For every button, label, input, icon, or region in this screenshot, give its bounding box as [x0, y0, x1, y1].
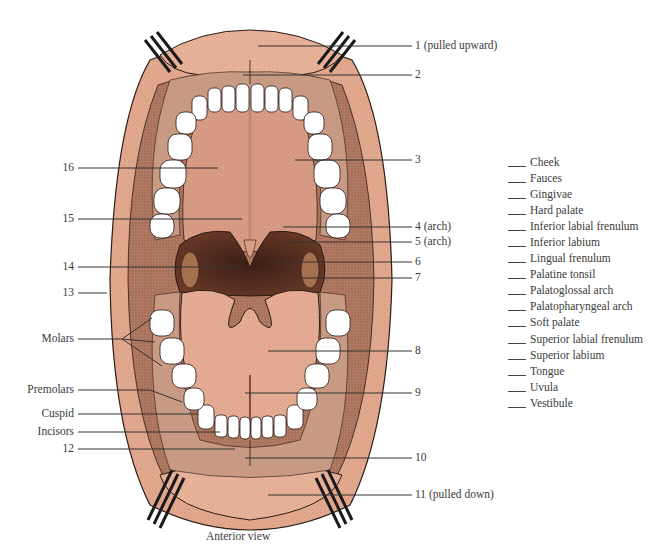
answer-blank[interactable]: [508, 173, 526, 183]
answer-blank[interactable]: [508, 382, 526, 392]
answer-blank[interactable]: [508, 350, 526, 360]
term-item: Fauces: [508, 170, 643, 186]
label-5: 5 (arch): [415, 235, 451, 248]
label-13: 13: [63, 286, 75, 299]
term-item: Vestibule: [508, 395, 643, 411]
label-8: 8: [415, 344, 421, 357]
term-item: Palatopharyngeal arch: [508, 298, 643, 314]
term-item: Inferior labium: [508, 234, 643, 250]
term-item: Palatine tonsil: [508, 266, 643, 282]
term-item: Hard palate: [508, 202, 643, 218]
term-item: Superior labium: [508, 347, 643, 363]
answer-blank[interactable]: [508, 253, 526, 263]
answer-blank[interactable]: [508, 237, 526, 247]
answer-blank[interactable]: [508, 157, 526, 167]
label-16: 16: [63, 161, 75, 174]
answer-blank[interactable]: [508, 221, 526, 231]
label-10: 10: [415, 451, 427, 464]
term-item: Cheek: [508, 154, 643, 170]
term-item: Tongue: [508, 363, 643, 379]
label-7: 7: [415, 271, 421, 284]
label-6: 6: [415, 255, 421, 268]
answer-blank[interactable]: [508, 189, 526, 199]
palatine-tonsil-left: [181, 252, 199, 288]
term-item: Lingual frenulum: [508, 250, 643, 266]
answer-blank[interactable]: [508, 285, 526, 295]
label-cuspid: Cuspid: [41, 407, 74, 420]
term-item: Inferior labial frenulum: [508, 218, 643, 234]
answer-blank[interactable]: [508, 269, 526, 279]
label-1: 1 (pulled upward): [415, 39, 497, 52]
answer-blank[interactable]: [508, 366, 526, 376]
term-item: Gingivae: [508, 186, 643, 202]
term-bank: Cheek Fauces Gingivae Hard palate Inferi…: [508, 154, 643, 411]
answer-blank[interactable]: [508, 398, 526, 408]
label-molars: Molars: [41, 332, 74, 345]
answer-blank[interactable]: [508, 301, 526, 311]
label-14: 14: [63, 260, 75, 273]
label-4: 4 (arch): [415, 220, 451, 233]
answer-blank[interactable]: [508, 317, 526, 327]
label-incisors: Incisors: [38, 425, 74, 438]
label-premolars: Premolars: [27, 383, 74, 396]
label-12: 12: [63, 442, 75, 455]
label-2: 2: [415, 68, 421, 81]
figure-caption: Anterior view: [206, 530, 270, 542]
term-item: Soft palate: [508, 314, 643, 330]
oral-cavity-diagram: 1 (pulled upward) 2 3 4 (arch) 5 (arch) …: [0, 0, 667, 556]
term-item: Palatoglossal arch: [508, 282, 643, 298]
answer-blank[interactable]: [508, 334, 526, 344]
label-9: 9: [415, 386, 421, 399]
term-item: Uvula: [508, 379, 643, 395]
palatine-tonsil-right: [301, 252, 319, 288]
label-11: 11 (pulled down): [415, 488, 494, 501]
label-15: 15: [63, 212, 75, 225]
term-item: Superior labial frenulum: [508, 331, 643, 347]
answer-blank[interactable]: [508, 205, 526, 215]
label-3: 3: [415, 153, 421, 166]
